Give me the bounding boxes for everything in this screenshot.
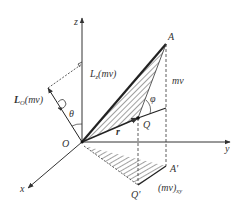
LO-label: LO(mv) — [13, 94, 44, 106]
theta-label: θ — [69, 108, 74, 119]
mv-xy-label: (mv)xy — [158, 182, 182, 194]
x-axis-label: x — [19, 183, 25, 194]
point-O — [81, 141, 84, 144]
theta-arc — [72, 124, 82, 126]
x-axis — [28, 142, 82, 188]
point-Q-label: Q — [143, 119, 151, 130]
mv-vector — [138, 108, 166, 118]
point-A-label: A — [167, 31, 175, 42]
z-axis-label: z — [73, 16, 78, 27]
LO-vector — [48, 88, 82, 142]
phi-label: φ — [150, 93, 156, 104]
point-Ap-label: A' — [169, 163, 179, 174]
dash-LO-z — [48, 64, 82, 88]
rotation-arrow-icon — [58, 99, 66, 108]
y-axis-label: y — [224, 143, 230, 154]
point-Q — [136, 116, 140, 120]
origin-label: O — [62, 138, 69, 149]
point-Qp-label: Q' — [131, 189, 141, 200]
r-label: r — [116, 126, 120, 137]
triangle-OQpAp — [84, 146, 166, 185]
right-angle-mark — [78, 62, 82, 67]
mv-label: mv — [172, 75, 184, 86]
Lz-label: Lz(mv) — [89, 68, 117, 80]
moment-diagram: z y x O A A' Q Q' r mv θ φ (mv)xy Lz(mv)… — [0, 0, 246, 216]
